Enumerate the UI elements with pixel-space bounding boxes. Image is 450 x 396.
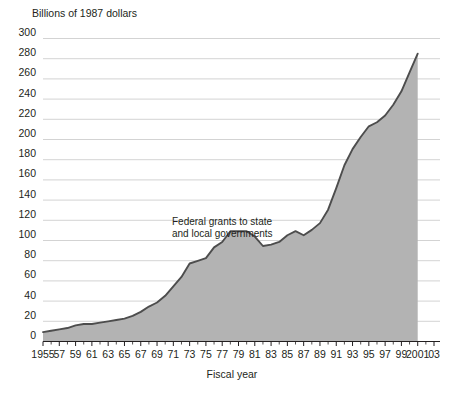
x-axis-tick-label: 03	[428, 348, 440, 360]
y-axis-tick-label: 60	[24, 268, 36, 280]
x-axis-title: Fiscal year	[207, 368, 258, 380]
y-axis-tick-label: 160	[18, 167, 36, 179]
x-axis-tick-label: 59	[70, 348, 82, 360]
x-axis-tick-label: 61	[86, 348, 98, 360]
y-axis-tick-label: 40	[24, 289, 36, 301]
x-axis-tick-label: 75	[200, 348, 212, 360]
x-axis-tick-label: 71	[167, 348, 179, 360]
y-axis-tick-label: 20	[24, 309, 36, 321]
y-axis-tick-label: 220	[18, 107, 36, 119]
chart-container: 1955575961636567697173757779818385878991…	[0, 0, 450, 396]
y-axis-unit-label: Billions of 1987 dollars	[32, 7, 137, 19]
y-axis-tick-label: 80	[24, 248, 36, 260]
x-axis-tick-label: 1955	[31, 348, 55, 360]
x-axis-tick-label: 93	[347, 348, 359, 360]
x-axis-tick-label: 85	[282, 348, 294, 360]
y-axis-tick-label: 100	[18, 228, 36, 240]
x-axis-tick-label: 97	[379, 348, 391, 360]
x-axis-tick-label: 79	[233, 348, 245, 360]
x-axis-tick-label: 2001	[406, 348, 430, 360]
series-annotation-line1: Federal grants to state	[172, 216, 272, 227]
y-axis-tick-label: 120	[18, 208, 36, 220]
y-axis-tick-label: 280	[18, 46, 36, 58]
x-axis-tick-label: 81	[249, 348, 261, 360]
x-axis-tick-label: 91	[330, 348, 342, 360]
x-axis-tick-label: 65	[119, 348, 131, 360]
y-axis-tick-label: 260	[18, 66, 36, 78]
y-axis-tick-label: 300	[18, 26, 36, 38]
x-axis-tick-label: 67	[135, 348, 147, 360]
y-axis-tick-label: 180	[18, 147, 36, 159]
area-chart: 1955575961636567697173757779818385878991…	[0, 0, 450, 396]
x-axis-tick-label: 95	[363, 348, 375, 360]
x-axis-tick-label: 57	[53, 348, 65, 360]
y-axis-tick-label: 240	[18, 87, 36, 99]
x-axis-tick-label: 73	[184, 348, 196, 360]
y-axis-tick-label: 0	[30, 329, 36, 341]
x-axis-tick-label: 87	[298, 348, 310, 360]
x-axis-tick-label: 63	[102, 348, 114, 360]
x-axis-tick-label: 77	[216, 348, 228, 360]
x-axis-tick-label: 69	[151, 348, 163, 360]
y-axis-tick-label: 140	[18, 188, 36, 200]
x-axis-tick-labels: 1955575961636567697173757779818385878991…	[31, 348, 440, 360]
x-axis-tick-label: 83	[265, 348, 277, 360]
series-annotation-line2: and local governments	[172, 228, 273, 239]
x-axis-tick-label: 89	[314, 348, 326, 360]
y-axis-tick-label: 200	[18, 127, 36, 139]
